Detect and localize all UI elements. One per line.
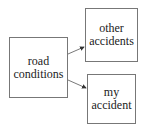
node-my-accident: my accident — [87, 74, 136, 124]
node-label: conditions — [14, 68, 64, 81]
node-label: road — [14, 55, 64, 68]
node-label: accidents — [89, 35, 134, 48]
node-other-accidents: other accidents — [85, 8, 138, 62]
edge-road-to-my-arrow — [68, 80, 86, 88]
node-label: accident — [92, 99, 132, 112]
edge-road-to-other-arrow — [68, 47, 84, 54]
node-road-conditions: road conditions — [9, 37, 68, 98]
